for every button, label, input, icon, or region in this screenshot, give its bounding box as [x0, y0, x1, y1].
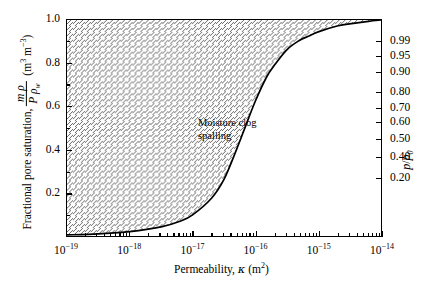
units-close: ): [21, 35, 33, 39]
fraction-numerator: m ρ: [14, 81, 27, 105]
y-axis-left-major-tick: [66, 63, 72, 64]
x-axis-major-tick: [319, 231, 320, 237]
x-axis-minor-tick: [211, 233, 212, 237]
y-axis-right-tick: [376, 56, 382, 57]
x-axis-minor-tick: [167, 233, 168, 237]
y-axis-right-tick-label: 0.90: [390, 66, 430, 78]
y-axis-right-tick: [376, 139, 382, 140]
y-axis-left-minor-tick: [66, 172, 70, 173]
plot-area: Moisture clog spalling: [66, 19, 382, 237]
x-axis-minor-tick: [275, 233, 276, 237]
units-middle: m: [21, 47, 33, 59]
annotation-moisture-clog: Moisture clog spalling: [198, 117, 257, 142]
x-axis-minor-tick: [379, 233, 380, 237]
x-axis-title-text: Permeability,: [174, 263, 238, 275]
x-axis-major-tick: [192, 231, 193, 237]
x-axis-minor-tick: [368, 233, 369, 237]
x-axis-minor-tick: [173, 233, 174, 237]
y-axis-left-major-tick: [66, 150, 72, 151]
x-axis-major-tick: [129, 231, 130, 237]
x-axis-minor-tick: [249, 233, 250, 237]
y-axis-left-minor-tick: [66, 128, 70, 129]
y-axis-right-tick: [376, 122, 382, 123]
y-axis-right-tick: [376, 92, 382, 93]
x-axis-minor-tick: [300, 233, 301, 237]
x-axis-minor-tick: [119, 233, 120, 237]
x-axis-minor-tick: [159, 233, 160, 237]
x-axis-minor-tick: [357, 233, 358, 237]
x-axis-minor-tick: [186, 233, 187, 237]
x-axis-title: Permeability, κ (m2): [0, 261, 443, 276]
y-axis-right-tick: [376, 72, 382, 73]
x-axis-tick-label: 10−16: [228, 241, 284, 256]
annotation-line-2: spalling: [198, 130, 257, 143]
x-axis-tick-label: 10−14: [354, 241, 410, 256]
x-axis-minor-tick: [115, 233, 116, 237]
y-axis-right-tick: [376, 41, 382, 42]
x-axis-minor-tick: [242, 233, 243, 237]
x-axis-minor-tick: [246, 233, 247, 237]
right-axis-numerator: p: [399, 164, 413, 170]
y-axis-right-tick: [376, 108, 382, 109]
x-axis-major-tick: [256, 231, 257, 237]
right-axis-denominator: p: [399, 155, 413, 161]
x-axis-tick-label: 10−15: [291, 241, 347, 256]
y-axis-left-title: Fractional pore saturation, m ρP ρw (m3 …: [14, 12, 42, 252]
y-axis-right-tick: [376, 178, 382, 179]
units-exponent-2: −3: [19, 39, 28, 48]
x-axis-major-tick: [382, 231, 383, 237]
x-axis-minor-tick: [372, 233, 373, 237]
x-axis-minor-tick: [96, 233, 97, 237]
y-axis-units: (m3 m−3): [21, 35, 33, 82]
x-axis-minor-tick: [104, 233, 105, 237]
y-axis-right-tick-label: 0.95: [390, 50, 430, 62]
x-axis-minor-tick: [286, 233, 287, 237]
y-axis-right-tick-label: 0.80: [390, 86, 430, 98]
units-open: (m: [21, 63, 33, 76]
right-axis-subscript: 0: [406, 151, 415, 155]
x-axis-minor-tick: [349, 233, 350, 237]
x-axis-units-close: ): [265, 263, 269, 275]
x-axis-minor-tick: [316, 233, 317, 237]
y-axis-left-minor-tick: [66, 41, 70, 42]
x-axis-minor-tick: [183, 233, 184, 237]
x-axis-minor-tick: [376, 233, 377, 237]
y-axis-right-tick-label: 0.99: [390, 35, 430, 47]
units-exponent-1: 3: [19, 59, 28, 63]
x-axis-minor-tick: [313, 233, 314, 237]
y-axis-right-title: p/p0: [399, 120, 415, 200]
x-axis-minor-tick: [123, 233, 124, 237]
x-axis-minor-tick: [85, 233, 86, 237]
x-axis-minor-tick: [190, 233, 191, 237]
x-axis-minor-tick: [309, 233, 310, 237]
denominator-p: P: [27, 97, 39, 104]
denominator-rho: ρ: [27, 88, 39, 94]
x-axis-minor-tick: [148, 233, 149, 237]
x-axis-minor-tick: [178, 233, 179, 237]
x-axis-minor-tick: [294, 233, 295, 237]
y-axis-left-minor-tick: [66, 215, 70, 216]
fraction-denominator: P ρw: [27, 81, 42, 105]
y-axis-title-prefix: Fractional pore saturation,: [21, 106, 33, 230]
x-axis-minor-tick: [305, 233, 306, 237]
x-axis-minor-tick: [126, 233, 127, 237]
x-axis-minor-tick: [363, 233, 364, 237]
y-axis-left-major-tick: [66, 193, 72, 194]
x-axis-minor-tick: [237, 233, 238, 237]
denominator-subscript: w: [33, 83, 42, 88]
annotation-line-1: Moisture clog: [198, 117, 257, 130]
y-axis-left-minor-tick: [66, 84, 70, 85]
y-axis-right-tick: [376, 157, 382, 158]
x-axis-minor-tick: [253, 233, 254, 237]
x-axis-minor-tick: [223, 233, 224, 237]
x-axis-tick-label: 10−19: [38, 241, 94, 256]
saturation-fraction: m ρP ρw: [14, 81, 42, 105]
y-axis-right-tick-label: 0.70: [390, 102, 430, 114]
chart-figure: Moisture clog spalling 10−1910−1810−1710…: [0, 0, 443, 283]
x-axis-minor-tick: [338, 233, 339, 237]
x-axis-units-open: (m: [248, 263, 261, 275]
x-axis-tick-label: 10−18: [101, 241, 157, 256]
x-axis-tick-label: 10−17: [164, 241, 220, 256]
y-axis-left-major-tick: [66, 106, 72, 107]
x-axis-minor-tick: [110, 233, 111, 237]
